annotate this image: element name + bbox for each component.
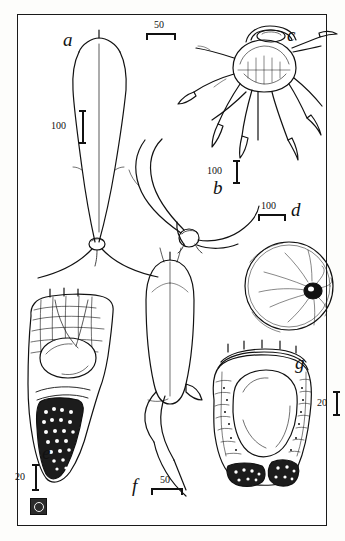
scale-bar-f-value: 50 <box>160 475 170 485</box>
scale-bar-a-value: 100 <box>51 121 66 131</box>
scale-bar-g-value: 20 <box>317 398 327 408</box>
scale-bar-a: 100 <box>79 110 86 144</box>
scale-bar-b-value: 100 <box>207 166 222 176</box>
scale-bar-f: 50 <box>151 488 183 495</box>
panel-label-a: a <box>63 30 73 49</box>
scale-bar-b: 100 <box>233 160 240 184</box>
scale-bar-c: 50 <box>146 33 176 40</box>
panel-label-c: c <box>287 25 295 44</box>
panel-label-d: d <box>291 200 301 219</box>
scale-bar-c-value: 50 <box>154 20 164 30</box>
panel-label-f: f <box>132 476 137 495</box>
archive-stamp-icon <box>30 498 47 515</box>
panel-label-b: b <box>213 178 223 197</box>
scale-bar-e-value: 20 <box>15 472 25 482</box>
scale-bar-g: 20 <box>333 391 340 416</box>
panel-label-e: e <box>42 443 50 462</box>
panel-label-g: g <box>295 353 305 372</box>
figure-plate: a b c d e f g 50 100 100 100 20 50 20 <box>0 0 345 541</box>
plate-border <box>17 14 327 526</box>
scale-bar-d-value: 100 <box>261 201 276 211</box>
scale-bar-e: 20 <box>32 464 39 491</box>
scale-bar-d: 100 <box>258 214 286 221</box>
